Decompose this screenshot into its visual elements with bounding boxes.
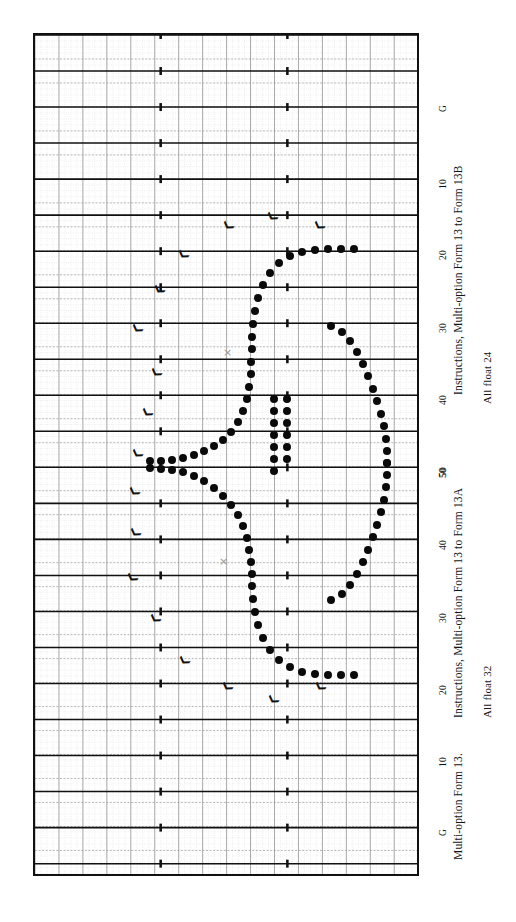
axis-tick-label: 20 [438, 685, 448, 695]
caption-cap-13: Multi-option Form 13. [452, 753, 464, 860]
data-point [346, 337, 354, 345]
chevron-marker-icon: ❮ [220, 680, 234, 694]
data-point [248, 582, 256, 590]
data-point [353, 570, 361, 578]
data-point [251, 608, 259, 616]
data-point [377, 508, 385, 516]
data-point [157, 457, 165, 465]
data-point [227, 428, 235, 436]
data-point [324, 245, 332, 253]
data-point [259, 634, 267, 642]
axis-tick-label: 40 [438, 395, 448, 405]
data-point [380, 422, 388, 430]
chevron-marker-icon: ❮ [221, 219, 235, 233]
data-point [270, 395, 278, 403]
caption-float-32: All float 32 [481, 665, 493, 718]
data-point [383, 471, 391, 479]
data-point [239, 522, 247, 530]
data-point [327, 596, 335, 604]
data-point [270, 455, 278, 463]
data-point [369, 533, 377, 541]
data-point [190, 451, 198, 459]
data-point [298, 668, 306, 676]
data-point [270, 419, 278, 427]
data-point [245, 546, 253, 554]
data-point [327, 322, 335, 330]
data-point [337, 245, 345, 253]
data-point [364, 546, 372, 554]
data-point [270, 467, 278, 475]
data-point [338, 590, 346, 598]
data-point [350, 245, 358, 253]
chevron-marker-icon: ❮ [177, 654, 191, 668]
caption-cap-13a: Instructions, Multi-option Form 13 to Fo… [452, 488, 464, 718]
data-point [247, 370, 255, 378]
data-point [283, 407, 291, 415]
data-point [286, 252, 294, 260]
data-point [227, 501, 235, 509]
data-point [248, 333, 256, 341]
data-point [383, 459, 391, 467]
x-marker-icon: × [219, 556, 228, 567]
data-point [377, 410, 385, 418]
chevron-marker-icon: ❮ [130, 322, 144, 336]
axis-tick-label: 30 [438, 613, 448, 623]
data-point [369, 385, 377, 393]
data-point [283, 455, 291, 463]
data-point [283, 443, 291, 451]
data-point [359, 360, 367, 368]
chevron-marker-icon: ❮ [128, 526, 142, 540]
data-point [168, 466, 176, 474]
chevron-marker-icon: ❮ [312, 219, 326, 233]
data-point [373, 521, 381, 529]
data-point [270, 431, 278, 439]
data-point [247, 558, 255, 566]
data-point [275, 656, 283, 664]
chevron-marker-icon: ❮ [266, 693, 280, 707]
data-point [179, 454, 187, 462]
data-point [251, 307, 259, 315]
data-point [275, 259, 283, 267]
data-point [234, 511, 242, 519]
axis-tick-label: 40 [438, 540, 448, 550]
data-point [311, 246, 319, 254]
data-point [383, 447, 391, 455]
data-point [373, 397, 381, 405]
data-point [219, 436, 227, 444]
data-point [266, 646, 274, 654]
chevron-marker-icon: ❮ [140, 406, 154, 420]
axis-tick-label: 30 [438, 323, 448, 333]
data-point [311, 670, 319, 678]
data-point [248, 345, 256, 353]
data-point [200, 447, 208, 455]
data-point [350, 671, 358, 679]
chevron-marker-icon: ❮ [127, 485, 141, 499]
data-point [146, 464, 154, 472]
data-point [359, 558, 367, 566]
data-point [234, 418, 242, 426]
data-point [364, 372, 372, 380]
chevron-marker-icon: ❮ [176, 248, 190, 262]
data-point [168, 456, 176, 464]
data-point [243, 395, 251, 403]
data-point [382, 483, 390, 491]
data-point [283, 395, 291, 403]
caption-cap-13b: Instructions, Multi-option Form 13 to Fo… [452, 165, 464, 395]
data-point [283, 431, 291, 439]
data-point [249, 320, 257, 328]
chevron-marker-icon: ❮ [152, 283, 166, 297]
data-point [338, 328, 346, 336]
data-point [259, 281, 267, 289]
data-point [254, 294, 262, 302]
data-point [190, 472, 198, 480]
x-marker-icon: × [223, 347, 232, 358]
data-point [210, 484, 218, 492]
data-marks-layer: ❮❮❮❮❮❮❮❮❮❮❮❮❮❮❮❮❮×× [35, 35, 417, 874]
caption-float-24: All float 24 [481, 351, 493, 404]
chevron-marker-icon: ❮ [125, 571, 139, 585]
data-point [286, 663, 294, 671]
data-point [324, 671, 332, 679]
data-point [179, 468, 187, 476]
chevron-marker-icon: ❮ [149, 366, 163, 380]
data-point [298, 248, 306, 256]
